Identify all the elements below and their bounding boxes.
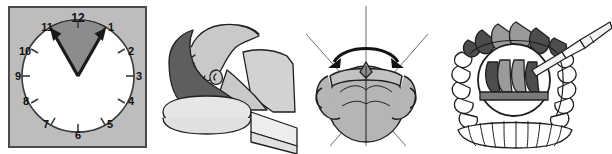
clock-numeral-7: 7 [43,118,49,130]
figure-root: 12 1 2 3 4 5 6 7 8 9 10 11 [0,0,612,154]
magnified-tooth-2 [498,60,512,92]
tooth-ul-4 [454,98,473,113]
clock-face-panel: 12 1 2 3 4 5 6 7 8 9 10 11 [0,0,155,154]
lower-arch-outline [458,123,572,149]
tooth-ur-2 [558,66,576,83]
magnified-gingiva-band [480,92,548,100]
dental-arch-probe-panel [440,0,612,154]
probe-handle [580,22,612,48]
skull-rotation-svg [300,0,440,154]
magnified-tooth-3 [512,60,526,92]
clock-numeral-6: 6 [75,129,81,141]
clock-numeral-10: 10 [19,45,31,57]
clock-numeral-9: 9 [15,70,21,82]
clock-numeral-11: 11 [41,21,53,33]
supine-head-svg [155,0,300,154]
clock-numeral-2: 2 [128,45,134,57]
clock-numeral-12: 12 [71,11,85,25]
tooth-ul-3 [452,82,470,99]
clock-svg: 12 1 2 3 4 5 6 7 8 9 10 11 [0,0,155,154]
skull-rotation-panel [300,0,440,154]
clock-numeral-5: 5 [107,118,113,130]
dental-arch-svg [440,0,612,154]
clock-numeral-3: 3 [136,70,142,82]
clock-numeral-1: 1 [108,21,114,33]
clock-numeral-8: 8 [23,95,29,107]
tooth-ur-3 [558,82,576,99]
tooth-ul-2 [452,66,470,83]
pillow-lower [163,118,251,134]
upper-left-posterior-teeth [452,52,478,128]
lower-arch-teeth [458,121,572,148]
supine-head-on-pillow-panel [155,0,300,154]
clock-numeral-4: 4 [128,95,135,107]
ear-shape [210,70,223,84]
